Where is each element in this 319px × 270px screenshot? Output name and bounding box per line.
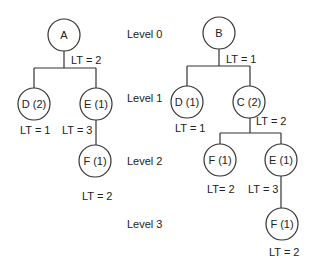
tree-node-f1b: F (1) bbox=[266, 208, 298, 240]
node-label: F (1) bbox=[83, 155, 106, 167]
node-label: E (1) bbox=[269, 154, 293, 166]
lt-label: LT = 2 bbox=[71, 54, 101, 66]
lt-label: LT = 3 bbox=[248, 183, 278, 195]
node-label: F (1) bbox=[208, 154, 231, 166]
lt-label: LT = 1 bbox=[226, 53, 256, 65]
tree-b: BD (1)C (2)F (1)E (1)F (1)LT = 1LT = 1LT… bbox=[171, 17, 299, 258]
node-label: D (2) bbox=[22, 98, 46, 110]
tree-node-e1: E (1) bbox=[265, 144, 297, 176]
tree-node-a: A bbox=[48, 19, 80, 51]
lt-label: LT= 2 bbox=[207, 183, 235, 195]
tree-node-c2: C (2) bbox=[233, 86, 265, 118]
node-label: D (1) bbox=[175, 96, 199, 108]
node-label: A bbox=[60, 29, 68, 41]
tree-node-d1: D (1) bbox=[171, 86, 203, 118]
tree-node-e1: E (1) bbox=[80, 88, 112, 120]
node-label: F (1) bbox=[270, 218, 293, 230]
level-label: Level 2 bbox=[127, 155, 162, 167]
tree-node-f1a: F (1) bbox=[204, 144, 236, 176]
lt-label: LT = 2 bbox=[82, 190, 112, 202]
node-label: C (2) bbox=[237, 96, 261, 108]
tree-diagram: Level 0Level 1Level 2Level 3AD (2)E (1)F… bbox=[0, 0, 319, 270]
lt-label: LT = 2 bbox=[269, 246, 299, 258]
lt-label: LT = 1 bbox=[175, 122, 205, 134]
level-label: Level 0 bbox=[127, 28, 162, 40]
level-label: Level 1 bbox=[127, 92, 162, 104]
lt-label: LT = 2 bbox=[256, 115, 286, 127]
lt-label: LT = 3 bbox=[62, 124, 92, 136]
tree-a: AD (2)E (1)F (1)LT = 2LT = 1LT = 3LT = 2 bbox=[18, 19, 112, 202]
node-label: E (1) bbox=[84, 98, 108, 110]
tree-node-b: B bbox=[203, 17, 235, 49]
level-label: Level 3 bbox=[127, 218, 162, 230]
tree-node-d2: D (2) bbox=[18, 88, 50, 120]
node-label: B bbox=[215, 27, 222, 39]
tree-node-f1: F (1) bbox=[79, 145, 111, 177]
lt-label: LT = 1 bbox=[20, 124, 50, 136]
